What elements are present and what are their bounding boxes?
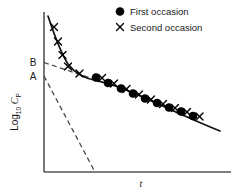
chart-legend: First occasion Second occasion (116, 6, 203, 33)
svg-text:Log10 CP: Log10 CP (9, 93, 22, 131)
marker-filled-circle (129, 89, 138, 98)
marker-filled-circle (117, 84, 126, 93)
marker-filled-circle (165, 103, 174, 112)
legend-label-first-occasion: First occasion (130, 6, 189, 17)
legend-label-second-occasion: Second occasion (130, 22, 202, 33)
marker-filled-circle (141, 94, 150, 103)
marker-filled-circle (177, 107, 186, 116)
marker-filled-circle (104, 79, 113, 88)
residual-distribution-line (44, 76, 95, 172)
marker-filled-circle (92, 73, 101, 82)
legend-cross-x-icon (117, 24, 124, 31)
semilog-concentration-chart: B A Log10 CP t First occasion Second occ… (0, 0, 240, 194)
intercept-label-B: B (30, 57, 37, 68)
y-axis-title-base: Log (9, 114, 20, 131)
legend-entry-first-occasion: First occasion (116, 6, 189, 17)
series-second-occasion-markers (51, 24, 204, 121)
series-first-occasion-markers (92, 73, 198, 120)
legend-entry-second-occasion: Second occasion (117, 22, 203, 33)
intercept-label-A: A (30, 71, 37, 82)
x-axis-title: t (140, 178, 143, 189)
axes-group (44, 12, 231, 172)
y-axis-title: Log10 CP (9, 93, 22, 131)
marker-filled-circle (189, 112, 198, 121)
chart-canvas: B A Log10 CP t First occasion Second occ… (0, 0, 240, 194)
legend-filled-circle-icon (116, 7, 125, 16)
y-axis-title-variable-subscript: P (15, 93, 22, 97)
marker-filled-circle (153, 99, 162, 108)
